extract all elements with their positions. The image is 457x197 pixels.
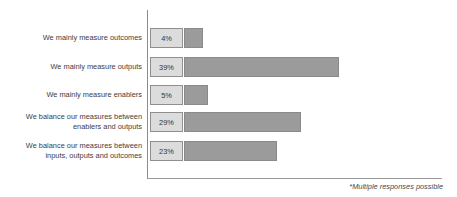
category-label: We mainly measure outputs xyxy=(2,62,147,72)
value-label: 23% xyxy=(150,141,183,161)
category-label: We balance our measures between inputs, … xyxy=(2,141,147,160)
bar-segment xyxy=(184,85,208,105)
chart-row: We mainly measure outputs 39% xyxy=(0,57,457,78)
value-label: 5% xyxy=(150,85,183,105)
category-label: We mainly measure outcomes xyxy=(2,33,147,43)
value-label: 39% xyxy=(150,57,183,77)
chart-plot-area: We mainly measure outcomes 4% We mainly … xyxy=(0,0,457,197)
chart-row: We balance our measures between inputs, … xyxy=(0,141,457,162)
value-label: 4% xyxy=(150,28,183,48)
chart-row: We mainly measure enablers 5% xyxy=(0,85,457,106)
value-label: 29% xyxy=(150,112,183,132)
category-label: We balance our measures between enablers… xyxy=(2,112,147,131)
chart-row: We balance our measures between enablers… xyxy=(0,112,457,133)
bar-segment xyxy=(184,57,339,77)
bar-segment xyxy=(184,28,203,48)
category-label: We mainly measure enablers xyxy=(2,90,147,100)
bar-segment xyxy=(184,112,301,132)
chart-row: We mainly measure outcomes 4% xyxy=(0,28,457,49)
chart-footnote: *Multiple responses possible xyxy=(349,182,443,191)
bar-chart-figure: We mainly measure outcomes 4% We mainly … xyxy=(0,0,457,197)
bar-segment xyxy=(184,141,277,161)
